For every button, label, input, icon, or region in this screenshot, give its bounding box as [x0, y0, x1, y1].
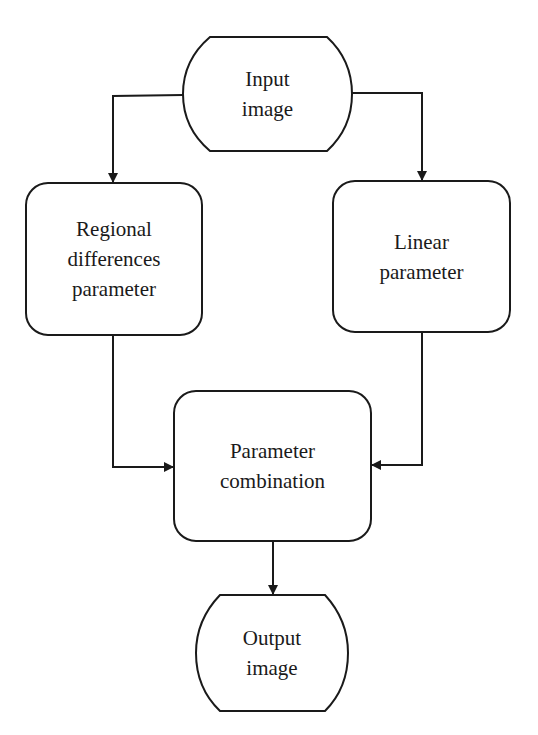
label-line: image	[246, 653, 297, 683]
label-line: Input	[245, 64, 289, 94]
input-image-label: Input image	[183, 37, 352, 151]
label-line: image	[242, 94, 293, 124]
edge-input-to-regional	[113, 95, 183, 182]
regional-differences-label: Regional differences parameter	[26, 183, 202, 335]
output-image-label: Output image	[196, 595, 348, 711]
label-line: Linear	[394, 227, 449, 257]
label-line: differences	[68, 244, 161, 274]
label-line: Regional	[76, 214, 152, 244]
label-line: Parameter	[230, 436, 315, 466]
edge-regional-to-combination	[113, 335, 173, 467]
linear-parameter-label: Linear parameter	[333, 181, 510, 332]
edge-input-to-linear	[352, 93, 422, 180]
label-line: parameter	[72, 274, 156, 304]
edge-linear-to-combination	[372, 332, 422, 465]
parameter-combination-label: Parameter combination	[174, 391, 371, 541]
label-line: combination	[220, 466, 325, 496]
label-line: Output	[243, 623, 301, 653]
label-line: parameter	[380, 257, 464, 287]
